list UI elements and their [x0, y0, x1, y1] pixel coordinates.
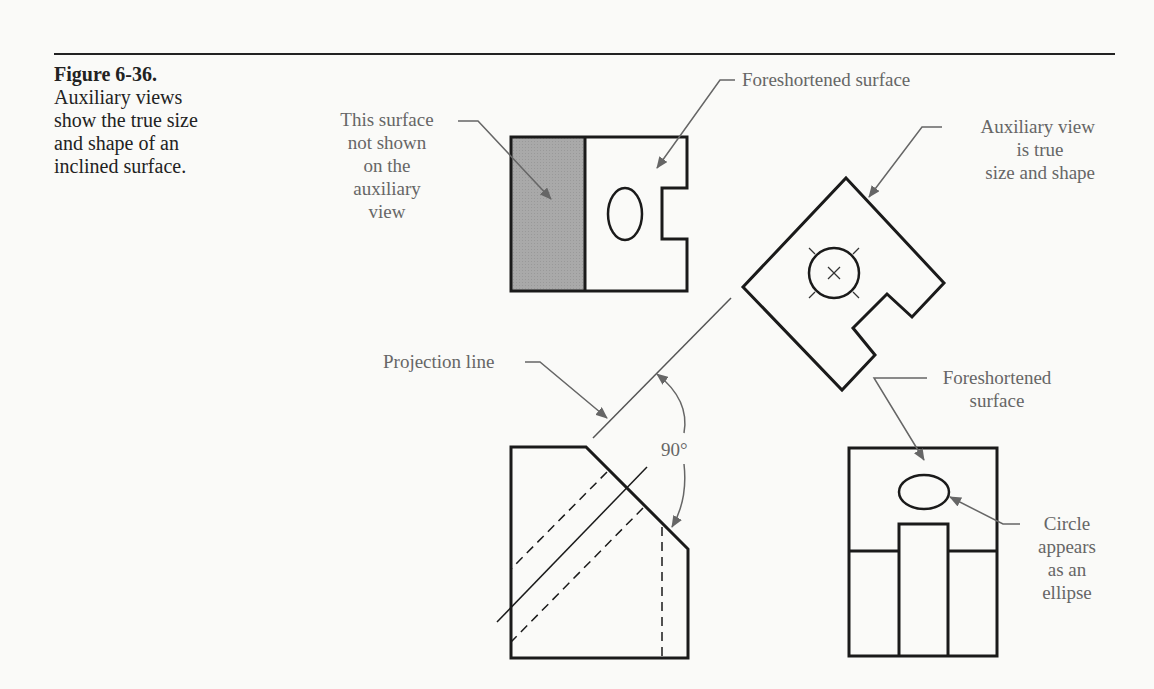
label-line: ellipse [1022, 581, 1112, 604]
label-circle-ellipse: Circle appears as an ellipse [1022, 512, 1112, 604]
hole-ellipse [899, 475, 949, 509]
label-projection-line: Projection line [383, 350, 494, 373]
label-line: auxiliary [320, 177, 454, 200]
label-line: This surface [320, 108, 454, 131]
front-view [497, 447, 688, 658]
hidden-line [511, 508, 643, 642]
projection-line-lower [497, 467, 647, 622]
side-view [849, 448, 997, 656]
label-foreshortened-side: Foreshortened surface [932, 366, 1062, 412]
label-line: view [320, 200, 454, 223]
label-line: on the [320, 154, 454, 177]
label-line: appears [1022, 535, 1112, 558]
label-not-shown: This surface not shown on the auxiliary … [320, 108, 454, 223]
drawing-canvas [0, 0, 1154, 689]
label-line: surface [932, 389, 1062, 412]
label-angle: 90° [661, 438, 688, 461]
label-auxiliary: Auxiliary view is true size and shape [945, 115, 1095, 184]
label-line: Foreshortened [932, 366, 1062, 389]
projection-line [593, 298, 731, 438]
label-line: size and shape [945, 161, 1095, 184]
hole-ellipse [608, 188, 642, 240]
label-line: as an [1022, 558, 1112, 581]
label-foreshortened-top: Foreshortened surface [742, 68, 910, 91]
label-line: not shown [320, 131, 454, 154]
label-line: Circle [1022, 512, 1112, 535]
label-line: is true [945, 138, 1095, 161]
top-view [511, 137, 687, 291]
label-line: Auxiliary view [945, 115, 1095, 138]
auxiliary-view [743, 178, 944, 390]
shaded-surface [511, 137, 585, 291]
hidden-line [511, 472, 607, 569]
